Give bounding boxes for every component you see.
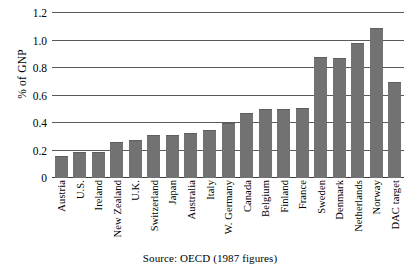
category-slot: Australia <box>182 180 201 252</box>
y-tick-label: 0.6 <box>13 90 47 102</box>
category-slot: Switzerland <box>145 180 164 252</box>
bar-slot <box>52 13 71 178</box>
bar-slot <box>126 13 145 178</box>
category-slot: U.S. <box>71 180 90 252</box>
bar-slot <box>219 13 238 178</box>
bar <box>333 58 346 178</box>
x-tick-label: W. Germany <box>223 180 234 234</box>
bar <box>73 152 86 178</box>
bar-slot <box>163 13 182 178</box>
bar <box>92 152 105 178</box>
bar <box>240 113 253 178</box>
x-tick-label: Sweden <box>315 180 326 214</box>
bar <box>147 135 160 178</box>
bar-slot <box>311 13 330 178</box>
x-tick-label: Finland <box>278 180 289 213</box>
category-slot: Belgium <box>256 180 275 252</box>
x-tick-label: Belgium <box>260 180 271 217</box>
category-slot: Italy <box>200 180 219 252</box>
x-tick-label: Japan <box>167 180 178 204</box>
category-slot: Finland <box>274 180 293 252</box>
category-slot: Ireland <box>89 180 108 252</box>
x-tick-label: France <box>297 180 308 209</box>
y-tick-label: 0 <box>13 172 47 184</box>
bar-slot <box>237 13 256 178</box>
category-slot: Denmark <box>330 180 349 252</box>
bar-slot <box>89 13 108 178</box>
bar-slot <box>108 13 127 178</box>
y-tick-label: 1.0 <box>13 35 47 47</box>
y-tick-label: 1.2 <box>13 7 47 19</box>
x-axis-category-labels: AustriaU.S.IrelandNew ZealandU.K.Switzer… <box>52 180 404 252</box>
x-tick-label: Switzerland <box>148 180 159 231</box>
category-slot: DAC target <box>386 180 405 252</box>
category-slot: Canada <box>237 180 256 252</box>
bar <box>296 108 309 178</box>
bar <box>351 43 364 178</box>
bar-slot <box>330 13 349 178</box>
x-tick-label: Austria <box>56 180 67 212</box>
category-slot: Norway <box>367 180 386 252</box>
x-tick-label: Netherlands <box>352 180 363 232</box>
bar-slot <box>293 13 312 178</box>
x-tick-label: New Zealand <box>111 180 122 237</box>
category-slot: U.K. <box>126 180 145 252</box>
y-tick-label: 0.4 <box>13 117 47 129</box>
bar-chart: % of GNP 00.20.40.60.81.01.2 AustriaU.S.… <box>0 0 420 269</box>
bar <box>388 82 401 178</box>
bar <box>55 156 68 178</box>
x-tick-label: Norway <box>371 180 382 214</box>
bar-slot <box>256 13 275 178</box>
x-tick-label: Ireland <box>93 180 104 210</box>
bar <box>222 123 235 178</box>
x-tick-label: Denmark <box>334 180 345 220</box>
plot-area: 00.20.40.60.81.01.2 <box>52 13 404 178</box>
bar-slot <box>349 13 368 178</box>
bar <box>110 142 123 178</box>
bar-slot <box>71 13 90 178</box>
bar <box>259 109 272 178</box>
x-tick-label: Australia <box>185 180 196 219</box>
category-slot: France <box>293 180 312 252</box>
x-tick-label: DAC target <box>389 180 400 230</box>
category-slot: Japan <box>163 180 182 252</box>
bar-slot <box>274 13 293 178</box>
x-tick-label: U.K. <box>130 180 141 201</box>
bar-slot <box>182 13 201 178</box>
bar <box>129 140 142 179</box>
bar-slot <box>200 13 219 178</box>
bar-slot <box>386 13 405 178</box>
bar-slot <box>367 13 386 178</box>
x-tick-label: Italy <box>204 180 215 200</box>
x-tick-label: Canada <box>241 180 252 212</box>
category-slot: New Zealand <box>108 180 127 252</box>
x-tick-label: U.S. <box>74 180 85 199</box>
category-slot: Austria <box>52 180 71 252</box>
y-tick-label: 0.8 <box>13 62 47 74</box>
bar-slot <box>145 13 164 178</box>
bar-series <box>52 13 404 178</box>
source-note: Source: OECD (1987 figures) <box>0 252 420 264</box>
bar <box>166 135 179 178</box>
bar <box>277 109 290 178</box>
bar <box>203 130 216 178</box>
bar <box>184 133 197 178</box>
category-slot: W. Germany <box>219 180 238 252</box>
bar <box>314 57 327 178</box>
y-tick-label: 0.2 <box>13 145 47 157</box>
category-slot: Netherlands <box>349 180 368 252</box>
category-slot: Sweden <box>311 180 330 252</box>
bar <box>370 28 383 178</box>
